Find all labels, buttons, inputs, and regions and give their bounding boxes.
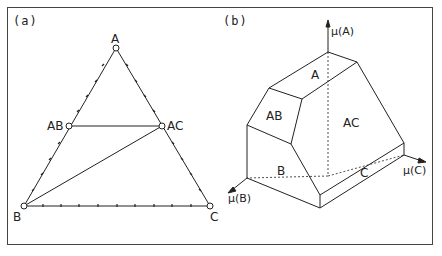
axis-muB-label: μ(B) xyxy=(228,193,251,204)
face-C-label: C xyxy=(360,167,368,179)
axis-muA-label: μ(A) xyxy=(331,26,354,37)
panel-b-label: (b) xyxy=(223,14,248,28)
potential-polyhedron xyxy=(228,20,426,208)
edge-B-C-boundary xyxy=(291,144,320,195)
vertex-B-marker xyxy=(21,203,27,209)
vertex-AB-label: AB xyxy=(47,120,63,132)
vertex-C-label: C xyxy=(210,211,218,223)
figure-canvas xyxy=(0,0,442,256)
edge-C-bottom xyxy=(320,155,404,208)
face-A-label: A xyxy=(311,69,319,81)
axis-muA-arrowhead xyxy=(326,20,330,27)
vertex-AB-marker xyxy=(66,123,72,129)
face-AC-label: AC xyxy=(343,117,359,129)
edge-AC-right xyxy=(357,62,404,143)
tie-line-B-AC xyxy=(24,126,162,206)
panel-a-label: (a) xyxy=(13,14,38,28)
face-AB-label: AB xyxy=(266,110,282,122)
vertex-B-label: B xyxy=(13,211,21,223)
vertex-AC-marker xyxy=(159,123,165,129)
vertex-AC-label: AC xyxy=(167,120,183,132)
face-B-label: B xyxy=(277,165,285,177)
vertex-A-label: A xyxy=(111,33,119,45)
tick-marks xyxy=(32,64,201,207)
axis-muC-arrowhead xyxy=(418,158,426,163)
axis-muC-label: μ(C) xyxy=(403,165,426,176)
edge-bottom-left xyxy=(247,178,320,208)
vertex-C-marker xyxy=(207,203,213,209)
